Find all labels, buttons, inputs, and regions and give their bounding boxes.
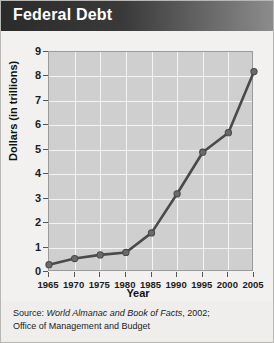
x-tick-mark — [99, 272, 100, 277]
title-bar: Federal Debt — [1, 1, 274, 31]
y-tick-label: 3 — [19, 192, 41, 204]
data-point-marker — [46, 262, 52, 268]
plot-region — [48, 51, 253, 271]
data-point-marker — [174, 191, 180, 197]
y-tick-label: 0 — [19, 265, 41, 277]
y-tick-label: 9 — [19, 45, 41, 57]
y-tick-label: 4 — [19, 167, 41, 179]
chart-figure: Federal Debt Dollars (in trillions) 0123… — [0, 0, 274, 343]
x-tick-mark — [253, 272, 254, 277]
y-tick-label: 5 — [19, 143, 41, 155]
x-axis-title: Year — [1, 287, 274, 299]
y-axis-title: Dollars (in trillions) — [7, 61, 19, 161]
data-point-marker — [97, 252, 103, 258]
y-tick-label: 2 — [19, 216, 41, 228]
x-tick-mark — [48, 272, 49, 277]
data-point-marker — [200, 149, 206, 155]
data-series-line — [49, 52, 254, 272]
data-point-marker — [72, 255, 78, 261]
data-point-marker — [123, 249, 129, 255]
x-tick-mark — [202, 272, 203, 277]
x-tick-mark — [227, 272, 228, 277]
data-point-marker — [225, 130, 231, 136]
chart-area: Dollars (in trillions) 0123456789 196519… — [1, 31, 274, 301]
data-point-marker — [251, 68, 257, 74]
source-note: Source: World Almanac and Book of Facts,… — [13, 307, 263, 333]
source-line2: Office of Management and Budget — [13, 321, 150, 331]
page-title: Federal Debt — [13, 6, 112, 24]
y-tick-label: 8 — [19, 69, 41, 81]
y-tick-label: 1 — [19, 241, 41, 253]
source-publication: World Almanac and Book of Facts — [47, 308, 183, 318]
data-point-marker — [148, 230, 154, 236]
y-tick-label: 7 — [19, 94, 41, 106]
x-tick-mark — [74, 272, 75, 277]
y-tick-label: 6 — [19, 118, 41, 130]
x-tick-mark — [151, 272, 152, 277]
x-tick-mark — [176, 272, 177, 277]
source-suffix: , 2002; — [182, 308, 210, 318]
source-prefix: Source: — [13, 308, 47, 318]
x-tick-mark — [125, 272, 126, 277]
